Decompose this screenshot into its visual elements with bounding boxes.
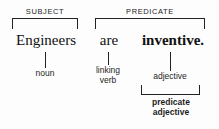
- connector-linking-verb: [108, 52, 109, 65]
- tag-predicate-adjective-line1: predicate: [152, 97, 190, 107]
- predicate-bracket: [95, 18, 205, 29]
- word-subject: Engineers: [8, 33, 84, 48]
- tag-noun: noun: [22, 69, 68, 79]
- word-linking-verb: are: [92, 33, 126, 48]
- word-predicate-adjective: inventive.: [138, 33, 208, 48]
- tag-linking-verb-line1: linking: [96, 65, 120, 75]
- tag-linking-verb-line2: verb: [100, 75, 117, 85]
- tag-linking-verb: linking verb: [85, 66, 131, 85]
- tag-predicate-adjective: predicate adjective: [136, 98, 206, 117]
- predicate-adjective-bracket: [141, 85, 200, 95]
- predicate-section-label: PREDICATE: [95, 7, 205, 16]
- tag-predicate-adjective-line2: adjective: [153, 107, 189, 117]
- connector-adjective: [170, 52, 171, 71]
- subject-bracket: [12, 18, 78, 29]
- connector-noun: [45, 52, 46, 68]
- subject-section-label: SUBJECT: [12, 7, 78, 16]
- sentence-diagram: SUBJECT PREDICATE Engineers are inventiv…: [0, 0, 219, 129]
- tag-adjective: adjective: [146, 72, 194, 82]
